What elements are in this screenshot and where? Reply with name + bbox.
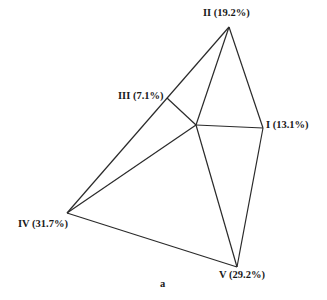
vertex-label-IV: IV (31.7%) (18, 219, 68, 230)
edge-center-III (167, 98, 196, 125)
edge-I-V (237, 128, 263, 267)
vertex-label-I: I (13.1%) (266, 120, 309, 131)
vertex-label-III: III (7.1%) (118, 91, 164, 102)
network-diagram (0, 0, 327, 300)
edge-center-V (196, 125, 237, 267)
vertex-label-V: V (29.2%) (219, 270, 265, 281)
edge-center-II (196, 27, 229, 125)
edge-V-IV (67, 213, 237, 267)
edge-center-I (196, 125, 263, 128)
edge-II-I (229, 27, 263, 128)
edge-IV-II (67, 27, 229, 213)
vertex-label-II: II (19.2%) (203, 8, 250, 19)
figure-caption: a (160, 279, 165, 290)
